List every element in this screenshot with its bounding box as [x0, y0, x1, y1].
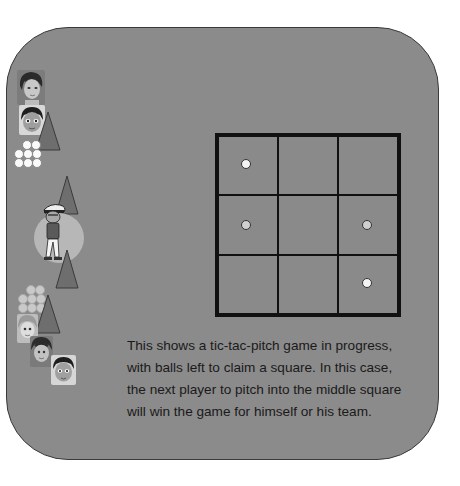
girl-face-icon [17, 70, 45, 105]
board-cell-2-1[interactable] [278, 255, 338, 314]
cone-icon-bottom [34, 293, 62, 335]
board-cell-0-2[interactable] [338, 136, 398, 195]
dark-hair-boy-face-icon [51, 355, 76, 385]
board-cell-1-1-middle[interactable] [278, 195, 338, 254]
ball-icon-gray [241, 220, 251, 230]
board-cell-0-1[interactable] [278, 136, 338, 195]
caption-text: This shows a tic-tac-pitch game in progr… [127, 335, 412, 423]
board-cell-1-0[interactable] [218, 195, 278, 254]
ball-icon-white [362, 278, 372, 288]
board-cell-2-0[interactable] [218, 255, 278, 314]
board-cell-1-2[interactable] [338, 195, 398, 254]
board-cell-0-0[interactable] [218, 136, 278, 195]
player-face-boy-dark-bottom [51, 355, 76, 385]
ball-icon-gray [362, 220, 372, 230]
player-face-girl-top [17, 70, 45, 105]
tic-tac-pitch-board [215, 133, 401, 317]
brown-hair-boy-face-icon [30, 336, 53, 367]
ball-icon-white [241, 159, 251, 169]
board-cell-2-2[interactable] [338, 255, 398, 314]
player-face-boy-brown-bottom [30, 336, 53, 367]
cone-icon-pitcher-bottom [54, 248, 80, 290]
